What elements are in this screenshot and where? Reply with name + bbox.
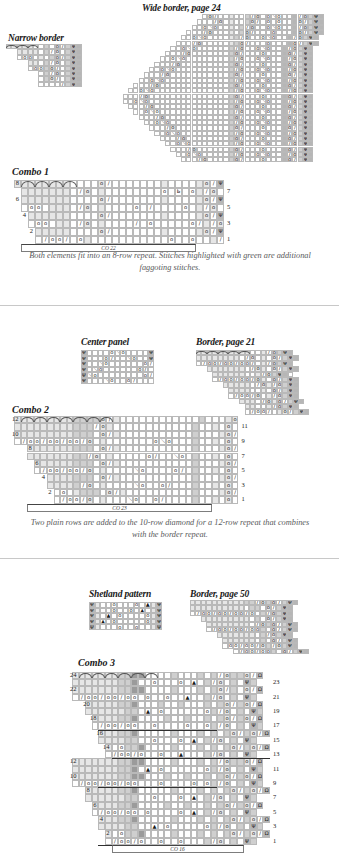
chart-cell: o bbox=[189, 220, 196, 228]
chart-cell bbox=[186, 445, 193, 452]
chart-cell bbox=[146, 416, 153, 423]
stitch-symbol: o bbox=[118, 625, 122, 629]
chart-cell bbox=[47, 445, 54, 452]
chart-cell bbox=[172, 496, 179, 503]
chart-cell bbox=[184, 830, 191, 837]
stitch-symbol: o bbox=[226, 446, 231, 451]
chart-cell bbox=[230, 722, 237, 729]
chart-cell bbox=[125, 715, 132, 722]
chart-cell bbox=[138, 722, 145, 729]
chart-cell bbox=[63, 196, 70, 204]
chart-cell bbox=[131, 744, 138, 751]
chart-cell: Ψ bbox=[250, 780, 257, 787]
chart-cell bbox=[179, 489, 186, 496]
chart-cell bbox=[182, 236, 189, 244]
chart-cell bbox=[98, 236, 105, 244]
chart-cell bbox=[224, 787, 231, 794]
chart-cell bbox=[47, 423, 54, 430]
stitch-symbol: o bbox=[159, 781, 164, 786]
chart-cell bbox=[192, 489, 199, 496]
chart-cell bbox=[47, 460, 54, 467]
chart-cell bbox=[224, 744, 231, 751]
chart-cell bbox=[80, 445, 87, 452]
chart-cell bbox=[192, 423, 199, 430]
stitch-symbol: o bbox=[61, 490, 66, 495]
chart-cell bbox=[126, 204, 133, 212]
stitch-symbol: ∕ bbox=[258, 817, 263, 822]
chart-cell bbox=[112, 794, 119, 801]
chart-cell bbox=[79, 766, 86, 773]
stitch-symbol: ▲ bbox=[192, 680, 197, 685]
chart-cell bbox=[230, 794, 237, 801]
chart-cell bbox=[161, 220, 168, 228]
stitch-symbol: Ω bbox=[258, 702, 263, 707]
chart-cell bbox=[105, 715, 112, 722]
stitch-symbol: ∕ bbox=[288, 89, 291, 92]
chart-cell: o bbox=[87, 482, 94, 489]
chart-cell bbox=[84, 180, 91, 188]
chart-cell bbox=[211, 686, 218, 693]
chart-cell bbox=[293, 366, 298, 371]
stitch-symbol: o bbox=[50, 67, 53, 70]
stitch-symbol: ＼ bbox=[88, 373, 92, 377]
stitch-symbol: ∕ bbox=[262, 373, 265, 376]
row-number-left: 2 bbox=[19, 227, 33, 234]
stitch-symbol: o bbox=[288, 148, 291, 151]
stitch-symbol: Ψ bbox=[72, 56, 75, 59]
stitch-symbol: Ψ bbox=[304, 153, 307, 156]
chart-cell bbox=[28, 212, 35, 220]
chart-cell bbox=[34, 431, 41, 438]
chart-cell bbox=[197, 679, 204, 686]
stitch-symbol: ∕ bbox=[113, 839, 118, 844]
chart-cell: o bbox=[112, 694, 119, 701]
chart-cell bbox=[182, 220, 189, 228]
stitch-symbol: ∕ bbox=[251, 410, 254, 413]
stitch-symbol: ∕ bbox=[238, 745, 243, 750]
chart-cell bbox=[232, 423, 239, 430]
stitch-symbol: o bbox=[218, 680, 223, 685]
stitch-symbol: ＼ bbox=[272, 15, 275, 18]
chart-cell bbox=[112, 715, 119, 722]
chart-cell: o bbox=[217, 686, 224, 693]
chart-cell bbox=[133, 236, 140, 244]
stitch-symbol: ∕ bbox=[212, 795, 217, 800]
chart-cell bbox=[164, 730, 171, 737]
stitch-symbol: Ψ bbox=[289, 367, 292, 370]
chart-cell bbox=[91, 188, 98, 196]
scallop-arc bbox=[196, 351, 207, 354]
row-number-left: 6 bbox=[5, 195, 19, 202]
chart-cell bbox=[40, 423, 47, 430]
chart-cell bbox=[112, 802, 119, 809]
chart-cell bbox=[126, 445, 133, 452]
chart-cell bbox=[192, 460, 199, 467]
stitch-symbol: o bbox=[293, 68, 296, 71]
chart-cell: Ω bbox=[257, 672, 264, 679]
chart-cell: ∕ bbox=[159, 496, 166, 503]
stitch-symbol: ∕ bbox=[246, 26, 249, 29]
stitch-symbol: Ω bbox=[258, 716, 263, 721]
chart-cell bbox=[205, 474, 212, 481]
stitch-symbol: o bbox=[267, 20, 270, 23]
chart-cell bbox=[205, 416, 212, 423]
chart-cell bbox=[70, 204, 77, 212]
chart-cell: ∕ bbox=[237, 830, 244, 837]
chart-cell bbox=[171, 773, 178, 780]
stitch-symbol: o bbox=[187, 142, 190, 145]
stitch-symbol: o bbox=[240, 47, 243, 50]
chart-cell: o bbox=[138, 838, 145, 845]
chart-cell bbox=[211, 758, 218, 765]
stitch-symbol: o bbox=[246, 378, 249, 381]
stitch-symbol: o bbox=[304, 15, 307, 18]
stitch-symbol: o bbox=[283, 410, 286, 413]
chart-cell bbox=[191, 722, 198, 729]
row-number-left: 4 bbox=[31, 473, 45, 480]
stitch-symbol: ∕ bbox=[251, 716, 256, 721]
stitch-symbol: ∕ bbox=[204, 205, 209, 211]
chart-cell bbox=[196, 236, 203, 244]
chart-cell bbox=[105, 708, 112, 715]
chart-cell bbox=[197, 744, 204, 751]
chart-cell bbox=[212, 474, 219, 481]
row-number-left: 12 bbox=[63, 757, 77, 764]
stitch-symbol: o bbox=[99, 197, 104, 203]
chart-cell bbox=[178, 686, 185, 693]
